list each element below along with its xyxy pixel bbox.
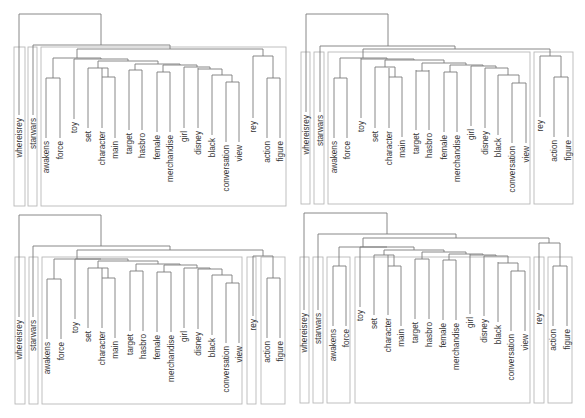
leaf-label-figure: figure <box>276 341 285 362</box>
leaf-label-hasbro: hasbro <box>139 334 148 359</box>
leaf-label-merchandise: merchandise <box>452 323 461 370</box>
leaf-label-starwars: starwars <box>29 320 38 351</box>
leaf-label-merchandise: merchandise <box>167 335 176 382</box>
leaf-label-disney: disney <box>480 318 489 343</box>
leaf-label-view: view <box>521 334 530 350</box>
leaf-label-starwars: starwars <box>29 118 38 149</box>
leaf-label-black: black <box>208 337 217 357</box>
leaf-label-black: black <box>494 137 503 157</box>
leaf-label-target: target <box>126 333 135 355</box>
leaf-label-whereisrey: whereisrey <box>15 117 24 158</box>
leaf-label-toy: toy <box>71 321 80 333</box>
leaf-label-character: character <box>98 331 107 365</box>
leaf-label-hasbro: hasbro <box>425 133 434 158</box>
leaf-label-set: set <box>84 130 93 142</box>
leaf-label-rey: rey <box>536 119 545 131</box>
dendrogram-grid: whereisreystarwarsawakensforcetoysetchar… <box>0 0 585 418</box>
leaf-label-whereisrey: whereisrey <box>300 312 309 353</box>
leaf-label-awakens: awakens <box>329 329 338 361</box>
leaf-label-girl: girl <box>467 129 476 140</box>
leaf-label-rey: rey <box>249 120 258 132</box>
leaf-label-action: action <box>549 329 558 351</box>
leaf-label-main: main <box>111 341 120 359</box>
leaf-label-figure: figure <box>563 329 572 350</box>
leaf-label-conversation: conversation <box>508 146 517 193</box>
leaf-label-female: female <box>439 323 448 348</box>
leaf-label-whereisrey: whereisrey <box>302 114 311 155</box>
leaf-label-rey: rey <box>249 318 258 330</box>
leaf-label-action: action <box>263 141 272 163</box>
leaf-label-set: set <box>371 130 380 142</box>
dendrogram-panel-bottom-right: whereisreystarwarsawakensforcetoysetchar… <box>295 210 585 418</box>
leaf-label-black: black <box>208 137 217 157</box>
leaf-label-set: set <box>370 317 379 329</box>
leaf-label-view: view <box>235 145 244 161</box>
leaf-label-force: force <box>57 342 66 361</box>
leaf-label-hasbro: hasbro <box>425 322 434 347</box>
leaf-label-awakens: awakens <box>43 342 52 374</box>
leaf-label-action: action <box>263 341 272 363</box>
leaf-label-view: view <box>522 146 531 162</box>
leaf-label-girl: girl <box>180 131 189 142</box>
leaf-label-target: target <box>411 321 420 343</box>
leaf-label-whereisrey: whereisrey <box>15 319 24 360</box>
leaf-label-female: female <box>153 335 162 360</box>
leaf-label-conversation: conversation <box>222 145 231 192</box>
leaf-label-female: female <box>153 135 162 160</box>
leaf-label-merchandise: merchandise <box>166 135 175 182</box>
leaf-label-character: character <box>385 131 394 165</box>
dendrogram-panel-bottom-left: whereisreystarwarsawakensforcetoysetchar… <box>0 210 290 418</box>
leaf-label-starwars: starwars <box>314 313 323 344</box>
leaf-label-conversation: conversation <box>222 346 231 393</box>
leaf-label-force: force <box>342 329 351 348</box>
leaf-label-disney: disney <box>194 130 203 155</box>
leaf-label-main: main <box>397 329 406 347</box>
leaf-label-disney: disney <box>194 331 203 356</box>
leaf-label-character: character <box>384 318 393 352</box>
leaf-label-main: main <box>111 141 120 159</box>
leaf-label-merchandise: merchandise <box>453 135 462 182</box>
dendrogram-panel-top-right: whereisreystarwarsawakensforcetoysetchar… <box>295 0 585 210</box>
leaf-label-girl: girl <box>180 331 189 342</box>
leaf-label-action: action <box>550 140 559 162</box>
leaf-label-toy: toy <box>70 121 79 133</box>
leaf-label-figure: figure <box>276 141 285 162</box>
dendrogram-panel-top-left: whereisreystarwarsawakensforcetoysetchar… <box>0 0 290 210</box>
leaf-label-disney: disney <box>481 130 490 155</box>
leaf-label-starwars: starwars <box>316 115 325 146</box>
leaf-label-view: view <box>235 346 244 362</box>
leaf-label-awakens: awakens <box>330 141 339 173</box>
leaf-label-girl: girl <box>466 317 475 328</box>
leaf-label-force: force <box>56 141 65 160</box>
leaf-label-target: target <box>412 132 421 154</box>
leaf-label-rey: rey <box>535 312 544 324</box>
leaf-label-toy: toy <box>356 309 365 321</box>
leaf-label-awakens: awakens <box>42 141 51 173</box>
cluster-box <box>261 257 285 404</box>
leaf-label-toy: toy <box>357 120 366 132</box>
leaf-label-hasbro: hasbro <box>138 133 147 158</box>
leaf-label-female: female <box>440 135 449 160</box>
leaf-label-set: set <box>84 330 93 342</box>
leaf-label-main: main <box>398 140 407 158</box>
leaf-label-character: character <box>98 131 107 165</box>
leaf-label-force: force <box>343 141 352 160</box>
leaf-label-figure: figure <box>564 140 573 161</box>
leaf-label-black: black <box>494 324 503 344</box>
leaf-label-target: target <box>125 132 134 154</box>
leaf-label-conversation: conversation <box>507 334 516 381</box>
